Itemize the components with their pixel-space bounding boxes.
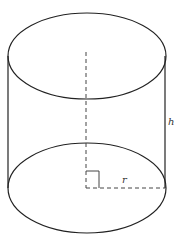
top-ellipse (8, 13, 166, 99)
cylinder-diagram: r h (0, 0, 176, 235)
radius-label: r (122, 174, 128, 185)
height-label: h (168, 116, 174, 127)
right-angle-marker (86, 171, 99, 188)
